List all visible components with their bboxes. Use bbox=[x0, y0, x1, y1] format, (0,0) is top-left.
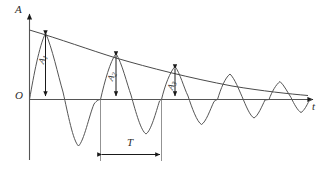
damped-oscillation-figure: A O t A1 A2 A3 T bbox=[0, 0, 328, 177]
origin-label: O bbox=[15, 90, 23, 101]
x-axis-label: t bbox=[312, 101, 315, 112]
plot-canvas bbox=[0, 0, 328, 177]
period-label: T bbox=[127, 137, 133, 148]
y-axis-label: A bbox=[15, 4, 22, 15]
